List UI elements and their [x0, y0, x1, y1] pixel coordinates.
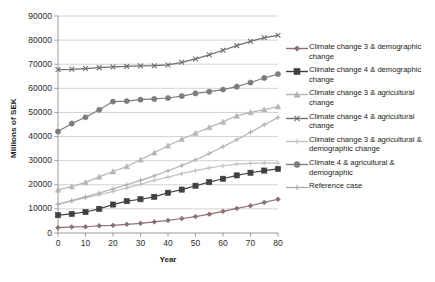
- x-tick-label: 80: [264, 238, 292, 248]
- legend-item[interactable]: Climate change 3 & demographic change: [286, 42, 435, 61]
- series-line: [55, 72, 280, 135]
- y-tick-label: 30000: [0, 155, 52, 165]
- x-tick-label: 0: [44, 238, 72, 248]
- chart-legend: Climate change 3 & demographic changeCli…: [286, 42, 435, 197]
- legend-marker-icon: [286, 136, 308, 147]
- legend-marker-icon: [286, 182, 308, 193]
- y-tick-label: 0: [0, 228, 52, 238]
- legend-marker-icon: [286, 113, 308, 124]
- x-tick-label: 30: [127, 238, 155, 248]
- y-tick-label: 80000: [0, 35, 52, 45]
- legend-marker-icon: [286, 43, 308, 54]
- legend-item-label: Reference case: [308, 181, 362, 191]
- x-tick-label: 20: [99, 238, 127, 248]
- x-tick-label: 50: [182, 238, 210, 248]
- legend-item-label: Climate change 3 & demographic change: [308, 42, 435, 61]
- x-tick-label: 40: [154, 238, 182, 248]
- legend-marker-icon: [286, 66, 308, 77]
- x-tick-label: 60: [209, 238, 237, 248]
- legend-item[interactable]: Climate 4 & agricultural & demographic: [286, 158, 435, 177]
- legend-item[interactable]: Climate change 3 & agricultural change: [286, 88, 435, 107]
- series-line: [56, 197, 281, 230]
- y-tick-label: 50000: [0, 107, 52, 117]
- x-tick-label: 10: [72, 238, 100, 248]
- legend-item-label: Climate change 4 & demographic change: [308, 65, 435, 84]
- series-line: [56, 161, 281, 207]
- legend-marker-icon: [286, 89, 308, 100]
- y-tick-label: 40000: [0, 131, 52, 141]
- series-line: [55, 166, 280, 217]
- y-tick-label: 60000: [0, 83, 52, 93]
- legend-item[interactable]: Climate change 4 & agricultural change: [286, 112, 435, 131]
- chart-container: Millions of SEK 010000200003000040000500…: [0, 0, 435, 282]
- series-line: [56, 33, 281, 72]
- y-tick-label: 70000: [0, 59, 52, 69]
- y-tick-label: 20000: [0, 179, 52, 189]
- legend-item[interactable]: Reference case: [286, 181, 435, 193]
- x-axis-title: Year: [58, 255, 278, 264]
- y-tick-label: 90000: [0, 11, 52, 21]
- legend-item-label: Climate change 4 & agricultural change: [308, 112, 435, 131]
- x-tick-label: 70: [237, 238, 265, 248]
- y-tick-label: 10000: [0, 203, 52, 213]
- legend-item-label: Climate change 3 & agricultural & demogr…: [308, 135, 435, 154]
- legend-item[interactable]: Climate change 4 & demographic change: [286, 65, 435, 84]
- legend-marker-icon: [286, 159, 308, 170]
- legend-item-label: Climate change 3 & agricultural change: [308, 88, 435, 107]
- legend-item[interactable]: Climate change 3 & agricultural & demogr…: [286, 135, 435, 154]
- legend-item-label: Climate 4 & agricultural & demographic: [308, 158, 435, 177]
